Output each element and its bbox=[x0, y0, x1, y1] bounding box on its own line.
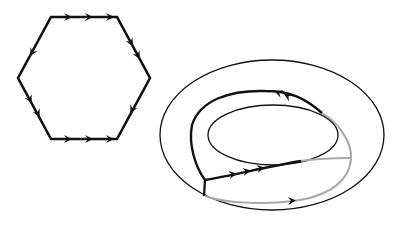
torus-inner-ellipse bbox=[208, 105, 338, 165]
black-upper-loop bbox=[191, 91, 322, 180]
lower-path-arrows-icon bbox=[228, 164, 265, 179]
black-junction-stub bbox=[204, 180, 205, 196]
hexagon-outline bbox=[18, 17, 150, 139]
upper-loop-arrows-icon bbox=[273, 88, 293, 102]
torus bbox=[160, 60, 384, 210]
hexagon bbox=[18, 13, 150, 143]
gray-right-arc bbox=[322, 113, 351, 158]
torus-outer-ellipse bbox=[160, 60, 384, 210]
diagram-canvas bbox=[0, 0, 399, 225]
gray-middle-segment bbox=[301, 158, 351, 161]
